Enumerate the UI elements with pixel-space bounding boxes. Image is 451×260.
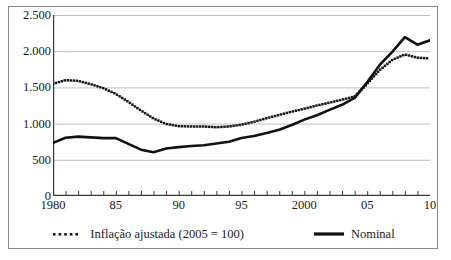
series-dots-0 bbox=[53, 54, 428, 129]
y-tick-label: 2.000 bbox=[23, 45, 51, 57]
legend-entry-nominal: Nominal bbox=[314, 227, 395, 241]
x-tick-label: 95 bbox=[235, 199, 248, 212]
x-tick-label: 2000 bbox=[292, 199, 317, 212]
chart-figure: 05001.0001.5002.0002.500 198085909520000… bbox=[8, 6, 438, 249]
legend-label-nominal: Nominal bbox=[351, 227, 395, 241]
y-axis-labels: 05001.0001.5002.0002.500 bbox=[9, 7, 51, 207]
dotted-line-swatch-icon bbox=[53, 229, 83, 239]
chart-canvas bbox=[53, 15, 430, 196]
y-tick-label: 2.500 bbox=[23, 9, 51, 21]
x-tick-label: 1980 bbox=[41, 199, 66, 212]
y-tick-label: 500 bbox=[32, 154, 51, 166]
plot-area bbox=[53, 15, 430, 196]
series-line-1 bbox=[53, 37, 430, 152]
x-tick-label: 10 bbox=[424, 199, 437, 212]
legend-label-inflation-adjusted: Inflação ajustada (2005 = 100) bbox=[90, 227, 244, 241]
legend-entry-inflation-adjusted: Inflação ajustada (2005 = 100) bbox=[53, 227, 244, 241]
x-axis-labels: 198085909520000510 bbox=[53, 197, 430, 217]
solid-line-swatch-icon bbox=[314, 229, 344, 239]
chart-legend: Inflação ajustada (2005 = 100) Nominal bbox=[9, 222, 439, 246]
x-tick-label: 05 bbox=[361, 199, 374, 212]
x-tick-label: 90 bbox=[172, 199, 185, 212]
x-tick-label: 85 bbox=[110, 199, 123, 212]
y-tick-label: 1.000 bbox=[23, 118, 51, 130]
y-tick-label: 1.500 bbox=[23, 81, 51, 93]
